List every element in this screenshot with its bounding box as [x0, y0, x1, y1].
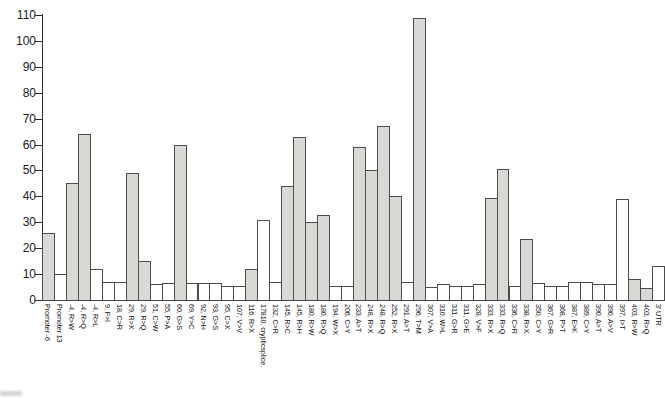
- x-tick-label: 180, R>Q: [319, 304, 327, 334]
- y-tick-label: 90: [0, 60, 36, 74]
- x-tick-label: 389, C>Y: [582, 304, 590, 333]
- x-tick-label: 145, R>H: [295, 304, 303, 334]
- x-tick-label: 333, R>Q: [498, 304, 506, 334]
- x-tick-label: 29, R>X: [127, 304, 135, 329]
- x-tick-label: 55, P>A: [163, 304, 171, 329]
- x-tick-label: 206, C>Y: [343, 304, 351, 333]
- y-tick-label: 60: [0, 138, 36, 152]
- x-tick-label: 333, R>X: [486, 304, 494, 333]
- x-tick-label: 252, R>X: [390, 304, 398, 333]
- x-tick-label: 29, R>Q: [139, 304, 147, 330]
- bar: [174, 145, 187, 301]
- y-tick-mark: [35, 145, 43, 146]
- x-tick-label: 367, G>R: [546, 304, 554, 334]
- x-tick-label: -4, R>Q: [79, 304, 87, 329]
- x-tick-label: 51, C>W: [151, 304, 159, 331]
- x-tick-label: 350, C>Y: [534, 304, 542, 333]
- y-tick-label: 10: [0, 267, 36, 281]
- y-tick-label: 110: [0, 8, 36, 22]
- x-tick-label: 248, R>X: [366, 304, 374, 333]
- x-tick-label: 296, T>M: [414, 304, 422, 334]
- x-tick-label: 368, P>T: [558, 304, 566, 333]
- x-tick-label: 310, W>L: [438, 304, 446, 334]
- x-tick-label: 336, C>R: [510, 304, 518, 334]
- x-tick-label: 311, G>E: [462, 304, 470, 333]
- x-tick-label: 403, R>Q: [642, 304, 650, 334]
- bar-chart: 0102030405060708090100110 Promoter -6Pro…: [0, 0, 665, 398]
- y-tick-mark: [35, 41, 43, 42]
- x-tick-label: 95, C>X: [223, 304, 231, 329]
- x-tick-label: 132, C>R: [271, 304, 279, 334]
- x-tick-label: 116, R>X: [247, 304, 255, 333]
- x-tick-label: 69, Y>C: [187, 304, 195, 329]
- cropped-caption-fragment: [0, 391, 22, 396]
- y-tick-label: 20: [0, 241, 36, 255]
- x-tick-label: 145, R>C: [283, 304, 291, 334]
- y-tick-label: 100: [0, 34, 36, 48]
- x-tick-label: 390, A>T: [594, 304, 602, 332]
- x-tick-label: 93, G>S: [211, 304, 219, 330]
- y-tick-label: 50: [0, 163, 36, 177]
- y-tick-mark: [35, 93, 43, 94]
- y-tick-mark: [35, 67, 43, 68]
- x-tick-label: 233, A>T: [354, 304, 362, 332]
- x-tick-label: Promoter -6: [43, 304, 51, 341]
- x-tick-label: 307, V>A: [426, 304, 434, 333]
- x-tick-label: 92, N>H: [199, 304, 207, 330]
- y-tick-mark: [35, 222, 43, 223]
- x-tick-label: 18, C>R: [115, 304, 123, 330]
- x-tick-label: 338, R>X: [522, 304, 530, 333]
- y-tick-label: 70: [0, 112, 36, 126]
- bar: [497, 169, 510, 301]
- x-tick-label: 328, V>F: [474, 304, 482, 333]
- x-tick-label: 291, A>T: [402, 304, 410, 332]
- y-tick-mark: [35, 15, 43, 16]
- x-tick-label: 403, R>W: [630, 304, 638, 335]
- x-tick-label: -4, R>W: [67, 304, 75, 330]
- x-tick-label: 107, V>V: [235, 304, 243, 333]
- y-tick-label: 0: [0, 293, 36, 307]
- x-tick-label: -4, R>L: [91, 304, 99, 327]
- y-tick-mark: [35, 170, 43, 171]
- y-tick-mark: [35, 119, 43, 120]
- bar: [652, 266, 665, 301]
- x-tick-label: 387, E>K: [570, 304, 578, 333]
- y-tick-mark: [35, 196, 43, 197]
- x-tick-label: 180, R>W: [307, 304, 315, 335]
- x-tick-label: 17810, crypticsplice: [259, 304, 267, 365]
- bar: [413, 18, 426, 301]
- x-tick-label: 9, F>I: [103, 304, 111, 322]
- x-tick-label: 390, A>V: [606, 304, 614, 333]
- x-tick-label: Promoter 13: [55, 304, 63, 342]
- y-tick-label: 40: [0, 189, 36, 203]
- x-tick-label: 3' UTR: [654, 304, 662, 326]
- x-tick-label: 248, R>Q: [378, 304, 386, 334]
- x-tick-label: 397, I>T: [618, 304, 626, 330]
- y-tick-label: 30: [0, 215, 36, 229]
- x-tick-label: 194, W>X: [331, 304, 339, 335]
- x-tick-label: 311, G>R: [450, 304, 458, 334]
- y-tick-label: 80: [0, 86, 36, 100]
- x-tick-label: 60, G>S: [175, 304, 183, 330]
